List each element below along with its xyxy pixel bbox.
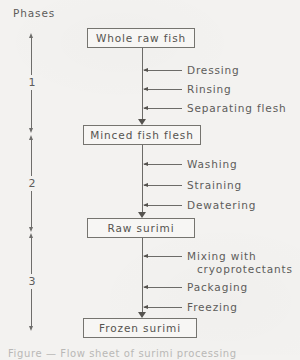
stage-box: Minced fish flesh	[83, 125, 201, 145]
stage-box: Frozen surimi	[83, 318, 197, 338]
operation-label: Packaging	[187, 281, 248, 294]
phases-axis-title: Phases	[13, 7, 55, 19]
phase-number-label: 2	[22, 176, 42, 191]
operation-label: Dewatering	[187, 199, 256, 212]
operation-label-text: Separating flesh	[187, 102, 286, 114]
operation-connector-arrow	[144, 287, 182, 288]
operation-connector-arrow	[144, 205, 182, 206]
stage-box: Whole raw fish	[87, 28, 195, 48]
arrow-down-icon	[29, 128, 33, 133]
operation-label-text: Mixing with	[187, 250, 256, 262]
stage-box: Raw surimi	[87, 218, 195, 238]
operation-connector-arrow	[144, 256, 182, 257]
flow-connector-line	[142, 238, 143, 314]
operation-label: Dressing	[187, 64, 240, 77]
operation-label-text: Washing	[187, 158, 237, 170]
operation-label: Washing	[187, 158, 237, 171]
operation-label: Straining	[187, 179, 242, 192]
operation-label: Rinsing	[187, 83, 232, 96]
operation-label-text: Straining	[187, 179, 242, 191]
flow-connector-line	[142, 48, 143, 121]
phase-number-label: 1	[22, 75, 42, 90]
operation-label: Separating flesh	[187, 102, 286, 115]
operation-connector-arrow	[144, 185, 182, 186]
operation-label-text: Dressing	[187, 64, 240, 76]
operation-connector-arrow	[144, 89, 182, 90]
phase-number-label: 3	[22, 274, 42, 289]
operation-label: Mixing withcryoprotectants	[187, 250, 293, 276]
operation-label-text: Packaging	[187, 281, 248, 293]
operation-label-text: Rinsing	[187, 83, 232, 95]
operation-connector-arrow	[144, 70, 182, 71]
operation-connector-arrow	[144, 164, 182, 165]
operation-label-text: Freezing	[187, 301, 238, 313]
operation-label-continuation: cryoprotectants	[187, 263, 293, 276]
figure-caption: Figure — Flow sheet of surimi processing	[8, 348, 298, 360]
operation-label-text: Dewatering	[187, 199, 256, 211]
operation-label: Freezing	[187, 301, 238, 314]
arrow-down-icon	[29, 326, 33, 331]
arrow-down-icon	[29, 227, 33, 232]
operation-connector-arrow	[144, 108, 182, 109]
operation-connector-arrow	[144, 307, 182, 308]
